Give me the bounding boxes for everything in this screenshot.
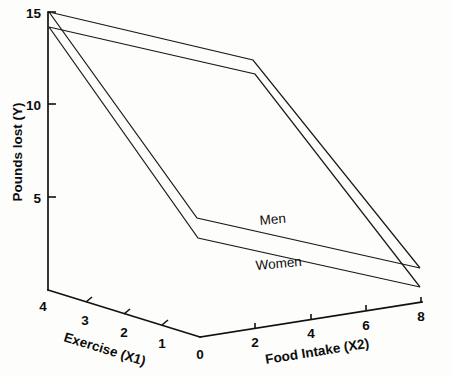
y-axis-ticks <box>48 12 56 197</box>
x1-axis-ticks <box>86 297 168 325</box>
x1-tick-label-1: 1 <box>158 336 166 351</box>
y-tick-label-15: 15 <box>26 6 42 21</box>
men-edge-exercise-4 <box>49 12 420 268</box>
x1-tick-2 <box>124 309 130 314</box>
x1-tick-label-4: 4 <box>39 299 47 314</box>
chart-container: 15 10 5 4 3 2 1 0 2 4 6 8 Pounds lost (Y… <box>0 0 452 377</box>
series-label-men: Men <box>259 211 286 228</box>
response-surface-plot: 15 10 5 4 3 2 1 0 2 4 6 8 Pounds lost (Y… <box>0 0 452 377</box>
y-tick-labels: 15 10 5 <box>26 6 42 206</box>
y-axis-title: Pounds lost (Y) <box>10 103 25 202</box>
x1-axis-title: Exercise (X1) <box>62 330 147 369</box>
y-tick-label-5: 5 <box>33 191 41 206</box>
x1-tick-label-0: 0 <box>196 347 204 362</box>
women-edge-exercise-4 <box>49 27 420 287</box>
series-women-surface <box>49 27 420 287</box>
x2-tick-label-4: 4 <box>307 326 315 341</box>
series-label-women: Women <box>255 254 302 273</box>
x2-axis-title: Food Intake (X2) <box>264 336 370 367</box>
x2-axis-ticks <box>255 297 421 328</box>
x2-tick-label-6: 6 <box>362 318 370 333</box>
y-tick-label-10: 10 <box>26 98 41 113</box>
series-men-surface <box>49 12 420 268</box>
x1-tick-3 <box>86 297 92 302</box>
x1-tick-label-2: 2 <box>120 325 128 340</box>
men-edge-exercise-0 <box>49 12 420 268</box>
axes-group <box>48 12 422 337</box>
x1-tick-label-3: 3 <box>81 313 89 328</box>
x2-tick-label-2: 2 <box>251 335 259 350</box>
x1-tick-1 <box>162 320 168 325</box>
women-edge-exercise-0 <box>49 27 420 287</box>
x2-tick-label-8: 8 <box>417 309 425 324</box>
